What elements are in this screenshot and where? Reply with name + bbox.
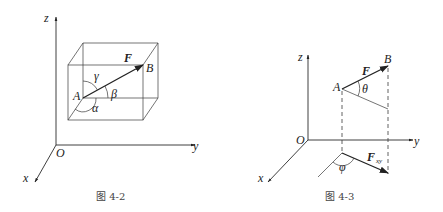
gamma-label: γ: [94, 69, 99, 83]
origin-label: O: [296, 133, 305, 147]
figure-caption: 图 4-2: [96, 191, 125, 202]
figure-4-2: z y x O A B F γ β α 图 4-2: [22, 11, 199, 202]
beta-label: β: [110, 87, 117, 101]
angle-beta-arc: [105, 86, 108, 98]
y-axis-label: y: [192, 139, 199, 153]
point-b-label: B: [384, 52, 392, 66]
origin-label: O: [56, 146, 65, 160]
angle-theta-arc: [358, 81, 360, 96]
z-axis-label: z: [43, 11, 49, 25]
point-b-label: B: [146, 61, 154, 75]
force-xy-label: F: [366, 150, 375, 164]
theta-label: θ: [362, 82, 368, 96]
y-axis-label: y: [413, 134, 420, 148]
force-label: F: [361, 64, 370, 78]
force-xy-subscript: xy: [375, 157, 383, 165]
phi-label: φ: [339, 160, 346, 174]
diagram-canvas: z y x O A B F γ β α 图 4-2: [0, 0, 443, 212]
x-axis-label: x: [22, 171, 29, 185]
point-a-label: A: [72, 89, 81, 103]
figure-caption: 图 4-3: [325, 191, 354, 202]
point-a-label: A: [332, 80, 341, 94]
z-axis-label: z: [297, 50, 303, 64]
force-label: F: [123, 51, 132, 65]
x-axis: [35, 145, 56, 182]
figure-4-3: z y x O A B F θ φ F xy 图 4-3: [257, 50, 420, 202]
alpha-label: α: [92, 101, 99, 115]
x-axis-label: x: [257, 171, 264, 185]
